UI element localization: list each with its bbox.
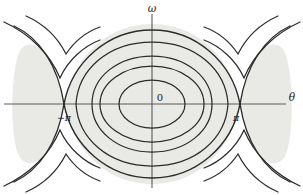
omega-axis-label: ω	[148, 2, 157, 14]
theta-axis-label: θ	[289, 91, 296, 103]
phase-portrait-svg: ω θ −π 0 π	[0, 0, 303, 195]
tick-label-pi: π	[232, 112, 240, 123]
phase-portrait-figure: ω θ −π 0 π	[0, 0, 303, 195]
tick-label-minus-pi: −π	[57, 112, 72, 123]
tick-label-zero: 0	[157, 92, 163, 103]
